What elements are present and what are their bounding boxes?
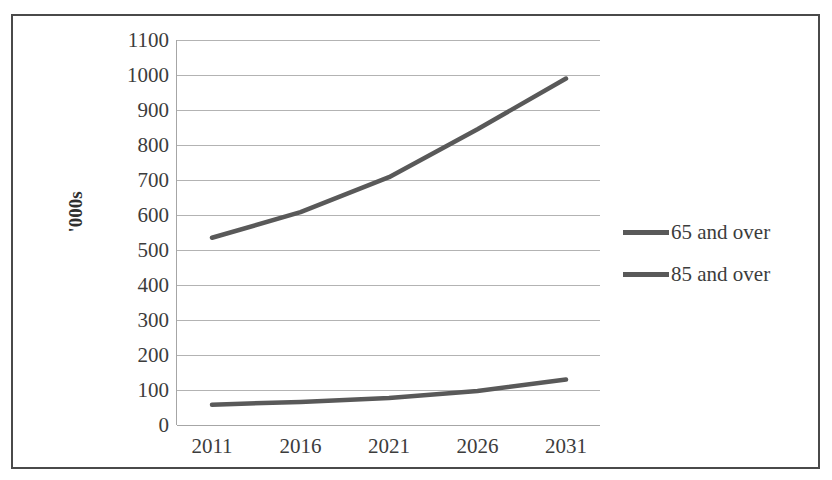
legend-item-label: 85 and over xyxy=(671,262,770,287)
x-tick-label-2031: 2031 xyxy=(511,436,621,457)
y-axis-tick-labels: 110010009008007006005004003002001000 xyxy=(91,40,169,425)
data-series-layer xyxy=(176,40,600,425)
y-tick-label-0: 0 xyxy=(97,415,169,436)
y-tick-label-700: 700 xyxy=(97,170,169,191)
y-tick-label-500: 500 xyxy=(97,240,169,261)
legend-item-label: 65 and over xyxy=(671,220,770,245)
y-tick-label-200: 200 xyxy=(97,345,169,366)
legend-line-swatch-icon xyxy=(623,230,669,235)
series-line-1 xyxy=(212,79,566,238)
legend-line-swatch-icon xyxy=(623,272,669,277)
y-tick-label-600: 600 xyxy=(97,205,169,226)
y-tick-label-800: 800 xyxy=(97,135,169,156)
y-tick-label-400: 400 xyxy=(97,275,169,296)
line-chart: '000s 1100100090080070060050040030020010… xyxy=(13,16,822,471)
legend-item-1[interactable]: 65 and over xyxy=(623,211,813,253)
y-tick-label-900: 900 xyxy=(97,100,169,121)
series-line-2 xyxy=(212,380,566,405)
y-tick-label-300: 300 xyxy=(97,310,169,331)
y-tick-label-1000: 1000 xyxy=(97,65,169,86)
chart-legend: 65 and over85 and over xyxy=(623,211,813,295)
gridline-0 xyxy=(177,425,600,426)
x-axis-tick-labels: 20112016202120262031 xyxy=(176,436,600,476)
chart-frame-border: '000s 1100100090080070060050040030020010… xyxy=(11,14,820,469)
legend-item-2[interactable]: 85 and over xyxy=(623,253,813,295)
y-tick-label-1100: 1100 xyxy=(97,30,169,51)
y-tick-label-100: 100 xyxy=(97,380,169,401)
chart-page: '000s 1100100090080070060050040030020010… xyxy=(0,0,832,480)
y-axis-title: '000s xyxy=(65,152,87,272)
